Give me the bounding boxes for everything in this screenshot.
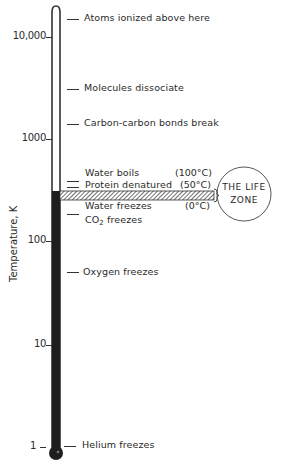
tick-mark (46, 345, 52, 346)
tick-label: 10,000 (2, 30, 46, 41)
leader-line (67, 89, 79, 90)
leader-line (64, 446, 76, 447)
thermometer (0, 0, 291, 466)
leader-line (67, 19, 79, 20)
tick-label: 10 (2, 338, 46, 349)
event-label: Carbon-carbon bonds break (84, 117, 219, 128)
celsius-value: (50°C) (180, 179, 211, 190)
tick-mark (46, 139, 52, 140)
life-zone-line1: THE LIFE (217, 181, 271, 194)
tick-mark (46, 37, 52, 38)
thermometer-bulb (49, 446, 63, 460)
tick-label: 1 (0, 440, 36, 451)
tick-mark (40, 447, 46, 448)
leader-line (67, 272, 79, 273)
axis-title: Temperature, K (8, 206, 19, 282)
celsius-value: (100°C) (175, 167, 212, 178)
event-label: Helium freezes (82, 439, 154, 450)
leader-line (67, 214, 79, 215)
event-label: Water boils (85, 167, 139, 178)
life-zone-label: THE LIFE ZONE (217, 181, 271, 207)
event-label: CO2 freezes (85, 214, 142, 227)
event-label: Atoms ionized above here (84, 12, 210, 23)
event-label: Oxygen freezes (83, 266, 159, 277)
life-zone-bar (60, 191, 214, 200)
celsius-value: (0°C) (185, 200, 210, 211)
event-label: Water freezes (85, 200, 152, 211)
leader-line (67, 124, 79, 125)
leader-line (67, 187, 79, 188)
event-label: Molecules dissociate (84, 82, 184, 93)
leader-line (67, 181, 79, 182)
event-label: Protein denatured (85, 179, 172, 190)
tick-label: 1000 (2, 132, 46, 143)
mercury-column (52, 191, 60, 449)
tick-mark (46, 241, 52, 242)
life-zone-line2: ZONE (217, 194, 271, 207)
